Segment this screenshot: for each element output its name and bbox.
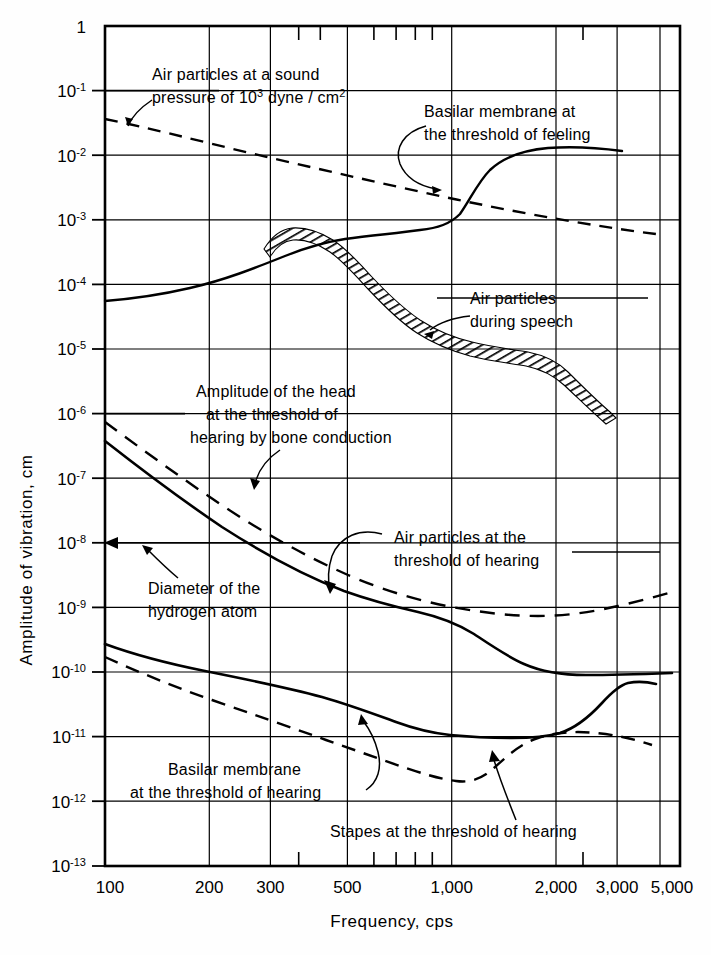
y-axis-title: Amplitude of vibration, cm [17, 454, 36, 665]
figure-root: 1 10-1 10-2 10-3 10-4 10-5 10-6 10-7 10-… [0, 0, 711, 955]
annotation-line: the threshold of feeling [424, 126, 591, 143]
y-tick-label: 10-4 [57, 275, 86, 295]
chart-svg: 1 10-1 10-2 10-3 10-4 10-5 10-6 10-7 10-… [0, 0, 711, 955]
x-tick-label: 5,000 [651, 878, 694, 897]
annotation-line: Amplitude of the head [196, 383, 356, 400]
annotation-line: Basilar membrane [168, 761, 301, 778]
annotation-line: threshold of hearing [394, 552, 539, 569]
annotation-line: Air particles at the [394, 529, 526, 546]
plot-frame [105, 26, 680, 866]
y-tick-label: 10-3 [57, 210, 86, 230]
x-tick-label: 200 [195, 878, 223, 897]
y-axis-ticks [92, 91, 105, 866]
y-tick-label: 1 [77, 18, 86, 37]
annotation-line: at the threshold of [206, 406, 338, 423]
y-tick-label: 10-7 [57, 469, 86, 489]
annotation-line: Air particles [470, 290, 556, 307]
x-axis-title: Frequency, cps [330, 912, 453, 931]
annotation-line: hydrogen atom [148, 603, 257, 620]
y-tick-label: 10-11 [52, 727, 86, 747]
x-tick-labels: 100 200 300 500 1,000 2,000 3,000 5,000 [96, 878, 693, 897]
x-tick-label: 2,000 [535, 878, 578, 897]
x-tick-label: 100 [96, 878, 124, 897]
y-tick-label: 10-5 [57, 339, 86, 359]
x-tick-label: 300 [256, 878, 284, 897]
annotation-line: Basilar membrane at [424, 103, 576, 120]
x-tick-label: 500 [333, 878, 361, 897]
y-tick-label: 10-13 [51, 856, 86, 876]
annotation-line: Air particles at a sound [152, 66, 320, 83]
y-tick-label: 10-2 [57, 146, 86, 166]
annotation-line: during speech [470, 313, 573, 330]
x-tick-label: 3,000 [596, 878, 639, 897]
y-tick-label: 10-6 [57, 404, 86, 424]
y-tick-label: 10-10 [51, 662, 86, 682]
annotation-line: Stapes at the threshold of hearing [330, 823, 577, 840]
y-tick-labels: 1 10-1 10-2 10-3 10-4 10-5 10-6 10-7 10-… [51, 18, 86, 876]
annotation-line: hearing by bone conduction [190, 429, 392, 446]
annotation-line: pressure of 103 dyne / cm2 [152, 87, 346, 106]
y-tick-label: 10-1 [57, 81, 86, 101]
y-tick-label: 10-8 [57, 533, 86, 553]
y-tick-label: 10-12 [51, 792, 86, 812]
x-tick-label: 1,000 [430, 878, 473, 897]
annotation-line: Diameter of the [148, 580, 260, 597]
annotation-line: at the threshold of hearing [130, 784, 321, 801]
y-tick-label: 10-9 [57, 598, 86, 618]
